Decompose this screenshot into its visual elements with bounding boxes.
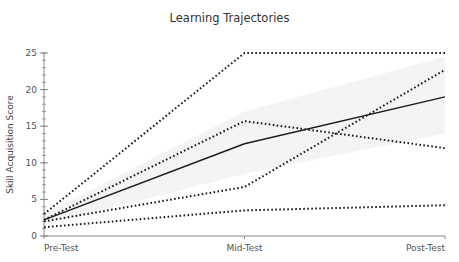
y-tick-label: 15 xyxy=(26,121,37,131)
y-tick-label: 20 xyxy=(26,85,38,95)
plot-area: 0510152025Pre-TestMid-TestPost-TestSkill… xyxy=(0,0,459,262)
x-tick-label: Post-Test xyxy=(406,243,445,253)
chart-container: Learning Trajectories 0510152025Pre-Test… xyxy=(0,0,459,262)
y-tick-label: 5 xyxy=(31,194,37,204)
y-tick-label: 0 xyxy=(31,231,37,241)
y-axis-title: Skill Acquisition Score xyxy=(5,95,15,194)
y-tick-label: 25 xyxy=(26,48,37,58)
y-tick-label: 10 xyxy=(26,158,38,168)
x-tick-label: Mid-Test xyxy=(226,243,263,253)
x-tick-label: Pre-Test xyxy=(44,243,79,253)
